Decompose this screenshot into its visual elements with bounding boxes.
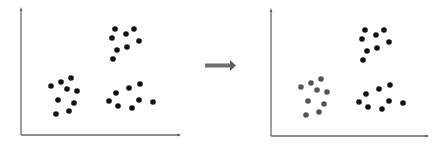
data-point	[110, 56, 116, 62]
data-point	[379, 106, 385, 112]
panel-before	[20, 7, 182, 137]
data-point	[124, 44, 130, 50]
data-point	[126, 85, 132, 91]
data-point	[374, 45, 380, 51]
data-point	[114, 47, 120, 53]
data-point	[113, 90, 119, 96]
data-point	[115, 103, 121, 109]
data-point	[321, 101, 327, 107]
data-point	[400, 100, 406, 106]
data-point	[359, 36, 365, 42]
data-point	[298, 84, 304, 90]
x-axis-arrowhead	[425, 135, 429, 138]
data-point	[109, 35, 115, 41]
data-point	[112, 26, 118, 32]
data-point	[66, 108, 72, 114]
data-point	[386, 39, 392, 45]
data-point	[131, 26, 137, 32]
data-point	[324, 89, 330, 95]
data-point	[71, 100, 77, 106]
data-point	[150, 99, 156, 105]
data-point	[376, 86, 382, 92]
data-point	[305, 98, 311, 104]
data-point	[55, 97, 61, 103]
panel-after	[270, 8, 430, 138]
cluster-bottom-left	[48, 75, 80, 117]
y-axis-arrowhead	[270, 8, 273, 12]
data-point	[373, 32, 379, 38]
data-point	[58, 79, 64, 85]
data-point	[106, 98, 112, 104]
data-point	[137, 81, 143, 87]
diagram-canvas	[0, 0, 443, 147]
clustering-diagram	[0, 0, 443, 147]
data-point	[308, 80, 314, 86]
data-point	[136, 38, 142, 44]
data-point	[303, 112, 309, 118]
data-point	[123, 31, 129, 37]
data-point	[53, 111, 59, 117]
cluster-bottom-left	[298, 76, 330, 118]
data-point	[356, 99, 362, 105]
data-point	[129, 105, 135, 111]
data-point	[68, 75, 74, 81]
data-point	[314, 87, 320, 93]
data-point	[387, 82, 393, 88]
transform-arrow-icon	[205, 60, 236, 71]
x-axis-arrowhead	[177, 134, 181, 137]
data-point	[360, 57, 366, 63]
data-point	[381, 27, 387, 33]
points-before	[48, 26, 156, 117]
points-after	[298, 27, 406, 118]
data-point	[365, 104, 371, 110]
data-point	[362, 27, 368, 33]
data-point	[64, 86, 70, 92]
data-point	[316, 109, 322, 115]
data-point	[74, 88, 80, 94]
data-point	[363, 91, 369, 97]
data-point	[318, 76, 324, 82]
cluster-bottom-right	[106, 81, 156, 111]
cluster-top-right	[109, 26, 142, 62]
data-point	[386, 98, 392, 104]
y-axis-arrowhead	[20, 7, 23, 11]
data-point	[364, 48, 370, 54]
data-point	[48, 83, 54, 89]
data-point	[136, 97, 142, 103]
cluster-top-right	[359, 27, 392, 63]
cluster-bottom-right	[356, 82, 406, 112]
